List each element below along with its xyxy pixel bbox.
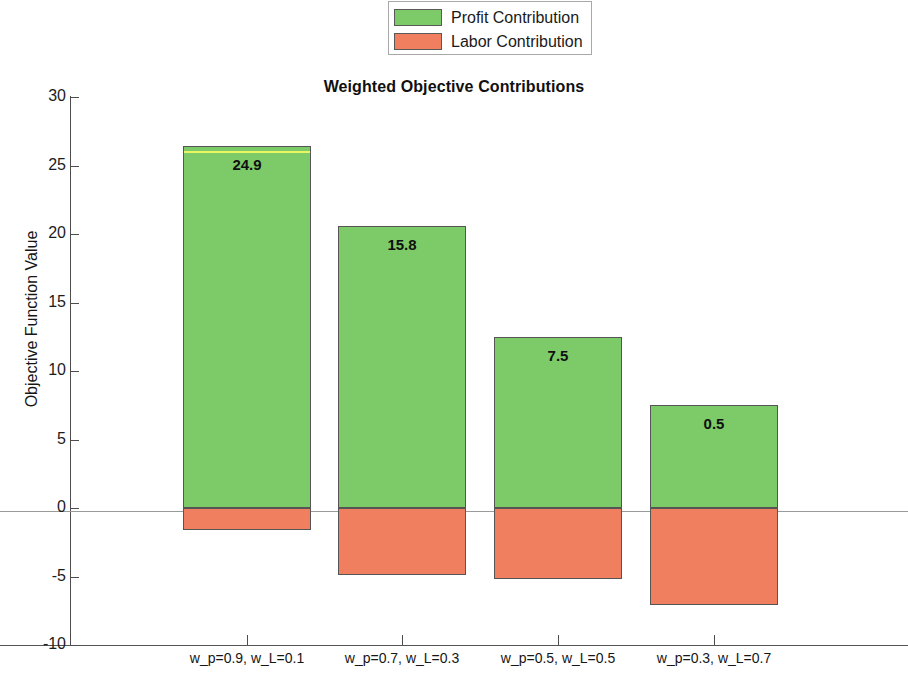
legend-label-labor-contribution: Labor Contribution — [451, 33, 583, 50]
chart-legend: Profit Contribution Labor Contribution — [388, 1, 592, 55]
bar-labor-contribution — [338, 508, 466, 575]
y-axis-tick — [71, 303, 79, 304]
x-axis-line — [0, 645, 908, 646]
x-axis-tick — [402, 635, 403, 645]
y-axis-tick — [71, 371, 79, 372]
legend-swatch-profit-contribution — [394, 9, 442, 26]
y-axis-tick-label: 0 — [6, 499, 66, 515]
y-axis-tick-label: 20 — [6, 225, 66, 241]
y-axis-tick-label: -10 — [6, 636, 66, 652]
y-axis-tick — [71, 577, 79, 578]
bar-profit-contribution — [183, 146, 311, 508]
bar-value-label: 0.5 — [654, 415, 774, 432]
y-axis-tick-label: 5 — [6, 431, 66, 447]
chart-title: Weighted Objective Contributions — [0, 78, 908, 96]
legend-swatch-labor-contribution — [394, 33, 442, 50]
y-axis-title: Objective Function Value — [23, 169, 41, 469]
x-axis-tick-label: w_p=0.3, w_L=0.7 — [614, 650, 814, 666]
y-axis-tick — [71, 508, 79, 509]
legend-item-labor-contribution: Labor Contribution — [394, 30, 586, 52]
y-axis-tick — [71, 645, 79, 646]
y-axis-tick — [71, 234, 79, 235]
bar-labor-contribution — [183, 508, 311, 530]
y-axis-tick-label: 10 — [6, 362, 66, 378]
y-axis-tick — [71, 97, 79, 98]
y-axis-tick — [71, 440, 79, 441]
y-axis-tick — [71, 166, 79, 167]
bar-highlight-marker — [184, 151, 310, 153]
bar-labor-contribution — [494, 508, 622, 579]
y-axis-tick-label: -5 — [6, 568, 66, 584]
legend-item-profit-contribution: Profit Contribution — [394, 6, 586, 28]
bar-value-label: 24.9 — [187, 156, 307, 173]
bar-value-label: 7.5 — [498, 347, 618, 364]
chart-figure: Profit Contribution Labor Contribution W… — [0, 0, 908, 676]
legend-label-profit-contribution: Profit Contribution — [451, 9, 579, 26]
bar-profit-contribution — [338, 226, 466, 508]
y-axis-tick-label: 15 — [6, 294, 66, 310]
bar-labor-contribution — [650, 508, 778, 605]
x-axis-tick — [247, 635, 248, 645]
x-axis-tick — [714, 635, 715, 645]
y-axis-tick-label: 25 — [6, 157, 66, 173]
y-axis-tick-label: 30 — [6, 88, 66, 104]
x-axis-tick — [558, 635, 559, 645]
bar-value-label: 15.8 — [342, 236, 462, 253]
